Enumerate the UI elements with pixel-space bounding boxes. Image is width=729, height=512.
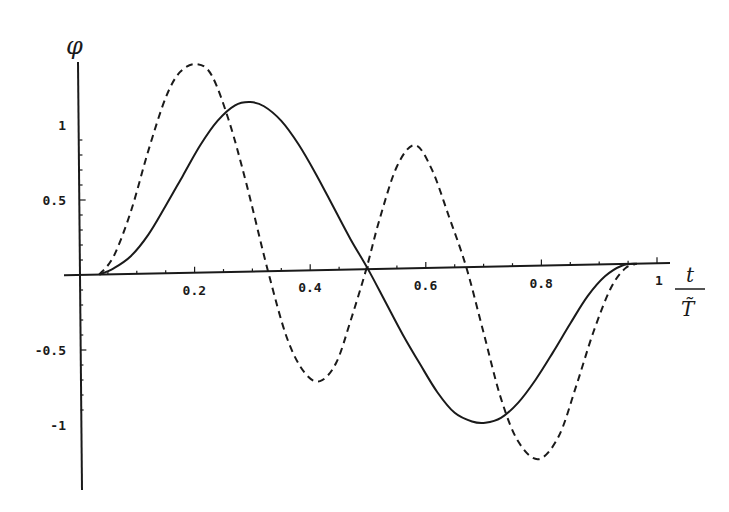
x-tick-label: 1 <box>655 273 663 288</box>
y-axis-label: φ <box>66 32 83 60</box>
y-tick-label: 1 <box>58 118 66 133</box>
line-chart: 0.20.40.60.81-1-0.50.51φtT̃ <box>0 0 729 512</box>
x-axis-label-numerator: t <box>686 263 695 287</box>
y-tick-label: -0.5 <box>35 343 66 358</box>
labels: 0.20.40.60.81-1-0.50.51φtT̃ <box>35 32 705 433</box>
x-tick-label: 0.8 <box>529 276 553 291</box>
x-axis-label-denominator: T̃ <box>681 297 696 321</box>
dashed-curve <box>99 64 637 459</box>
curves <box>99 64 637 459</box>
x-tick-label: 0.4 <box>298 280 322 295</box>
y-tick-label: -1 <box>50 418 66 433</box>
x-tick-label: 0.2 <box>183 283 206 298</box>
x-tick-label: 0.6 <box>414 278 438 293</box>
y-tick-label: 0.5 <box>43 193 66 208</box>
